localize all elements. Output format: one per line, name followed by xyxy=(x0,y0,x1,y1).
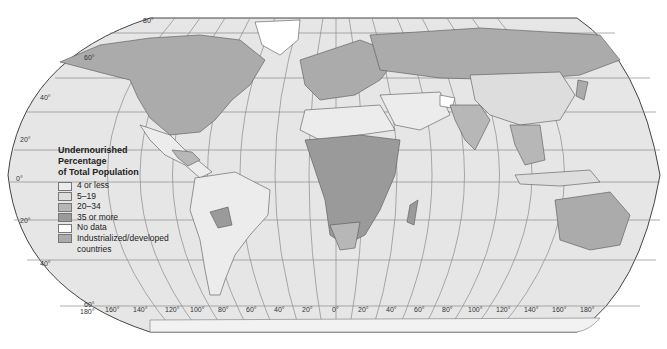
lat-label-20s: 20° xyxy=(20,217,31,224)
legend-label: countries xyxy=(77,244,112,255)
legend-swatch xyxy=(58,234,72,243)
lon-label: 20° xyxy=(358,306,369,313)
lon-label: 40° xyxy=(274,306,285,313)
legend-item-35-or-more: 35 or more xyxy=(58,212,169,223)
legend-swatch xyxy=(58,203,72,212)
legend-title-line: of Total Population xyxy=(58,167,169,178)
lon-label: 60° xyxy=(414,306,425,313)
legend-title: Undernourished Percentage of Total Popul… xyxy=(58,145,169,178)
legend-item-no-data: No data xyxy=(58,222,169,233)
legend-label: Industrialized/developed xyxy=(77,233,169,244)
legend-swatch xyxy=(58,182,72,191)
legend-title-line: Percentage xyxy=(58,156,169,167)
lat-label-20n: 20° xyxy=(20,136,31,143)
legend-item-4-or-less: 4 or less xyxy=(58,180,169,191)
legend-title-line: Undernourished xyxy=(58,145,169,156)
legend-label: 4 or less xyxy=(77,180,109,191)
legend-item-industrialized-cont: countries xyxy=(58,244,169,255)
lon-label: 100° xyxy=(468,306,483,313)
lat-label-60s: 60° xyxy=(84,301,95,308)
legend-label: 35 or more xyxy=(77,212,118,223)
lon-label: 100° xyxy=(190,306,205,313)
legend-swatch xyxy=(58,224,72,233)
lat-label-80n: 80° xyxy=(143,17,154,24)
legend-item-20-34: 20–34 xyxy=(58,201,169,212)
legend-item-industrialized: Industrialized/developed xyxy=(58,233,169,244)
antarctica xyxy=(150,318,600,332)
lon-label: 20° xyxy=(302,306,313,313)
legend-label: 20–34 xyxy=(77,201,101,212)
lat-label-0: 0° xyxy=(16,175,23,182)
lon-label: 140° xyxy=(524,306,539,313)
lon-label: 80° xyxy=(442,306,453,313)
lon-label: 180° xyxy=(80,308,95,315)
lon-label: 0° xyxy=(332,306,339,313)
lon-label: 140° xyxy=(133,306,148,313)
legend-label: No data xyxy=(77,222,107,233)
lon-label: 80° xyxy=(218,306,229,313)
map-legend: Undernourished Percentage of Total Popul… xyxy=(58,145,169,254)
lon-label: 180° xyxy=(580,306,595,313)
legend-swatch xyxy=(58,213,72,222)
lon-label: 120° xyxy=(165,306,180,313)
legend-swatch xyxy=(58,192,72,201)
lon-label: 40° xyxy=(386,306,397,313)
lon-label: 160° xyxy=(105,306,120,313)
lat-label-40n: 40° xyxy=(40,94,51,101)
legend-item-5-19: 5–19 xyxy=(58,191,169,202)
lon-label: 160° xyxy=(552,306,567,313)
lon-label: 60° xyxy=(246,306,257,313)
legend-label: 5–19 xyxy=(77,191,96,202)
lat-label-60n: 60° xyxy=(84,54,95,61)
lon-label: 120° xyxy=(496,306,511,313)
russia xyxy=(370,28,620,80)
lat-label-40s: 40° xyxy=(40,260,51,267)
